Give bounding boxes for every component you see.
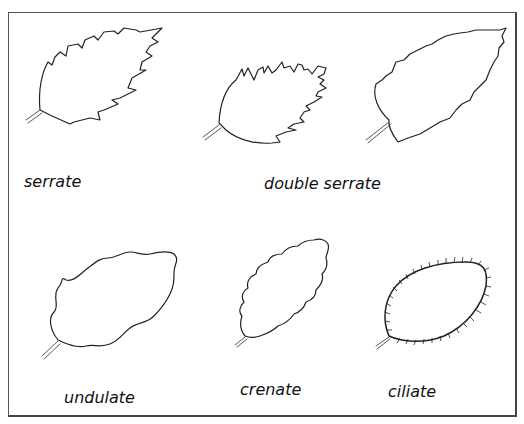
label-double-serrate: double serrate bbox=[264, 174, 381, 193]
label-crenate: crenate bbox=[240, 380, 301, 399]
label-undulate: undulate bbox=[64, 388, 135, 407]
label-ciliate: ciliate bbox=[388, 382, 436, 401]
ciliate-leaf-illustration bbox=[0, 0, 524, 424]
label-serrate: serrate bbox=[24, 172, 81, 191]
